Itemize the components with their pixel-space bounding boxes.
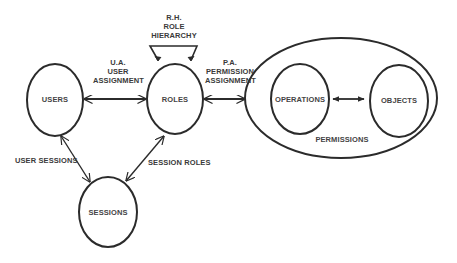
sessions-label: SESSIONS	[84, 208, 132, 217]
user-assignment-label: U.A. USER ASSIGNMENT	[93, 58, 143, 85]
pa-line2: PERMISSION	[205, 67, 255, 76]
pa-abbrev: P.A.	[205, 58, 255, 67]
ua-line3: ASSIGNMENT	[93, 76, 143, 85]
pa-line3: ASSIGNMENT	[205, 76, 255, 85]
user-sessions-label: USER SESSIONS	[15, 156, 71, 165]
rh-line2: ROLE	[150, 22, 198, 31]
rbac-diagram-canvas	[0, 0, 457, 263]
ua-line2: USER	[93, 67, 143, 76]
role-hierarchy-label: R.H. ROLE HIERARCHY	[150, 13, 198, 40]
permission-assignment-label: P.A. PERMISSION ASSIGNMENT	[205, 58, 255, 85]
permissions-label: PERMISSIONS	[310, 135, 374, 144]
objects-label: OBJECTS	[375, 96, 423, 105]
users-label: USERS	[35, 95, 75, 104]
operations-label: OPERATIONS	[274, 95, 326, 104]
session-roles-label: SESSION ROLES	[148, 158, 204, 167]
roles-label: ROLES	[155, 95, 195, 104]
rh-line3: HIERARCHY	[150, 31, 198, 40]
ua-abbrev: U.A.	[93, 58, 143, 67]
rh-abbrev: R.H.	[150, 13, 198, 22]
